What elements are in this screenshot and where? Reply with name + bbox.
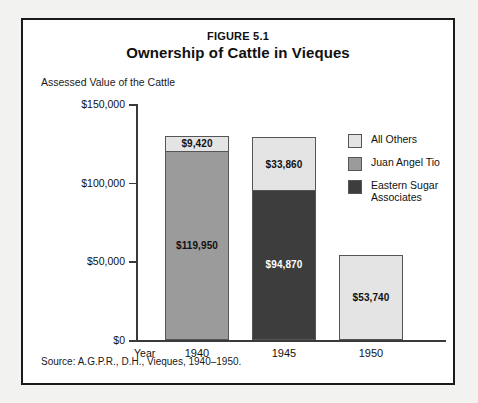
y-axis-line [136,104,138,341]
source-note: Source: A.G.P.R., D.H., Vieques, 1940–19… [41,356,241,367]
figure-frame: FIGURE 5.1 Ownership of Cattle in Vieque… [21,18,455,385]
figure-title: Ownership of Cattle in Vieques [23,44,453,61]
x-axis-label: 1950 [339,347,403,359]
y-axis-tick-mark [129,340,136,342]
y-axis-tick-mark [129,261,136,263]
x-axis-line [136,340,446,342]
bar-value-label: $53,740 [353,292,390,303]
bar-value-label: $94,870 [266,259,303,270]
y-axis-tick-label: $150,000 [81,98,125,110]
bar-group[interactable]: $53,740 [339,255,403,340]
bar-group[interactable]: $9,420$119,950 [165,136,229,340]
legend-item[interactable]: Juan Angel Tio [348,156,453,171]
bar-value-label: $9,420 [181,138,212,149]
legend-label: All Others [371,133,417,145]
bar-segment[interactable]: $33,860 [252,137,316,190]
figure-number: FIGURE 5.1 [23,30,453,42]
bar-segment[interactable]: $94,870 [252,190,316,339]
legend-item[interactable]: Eastern Sugar Associates [348,179,453,203]
x-axis-label: 1945 [252,347,316,359]
legend-swatch-icon [348,180,362,194]
legend-label: Eastern Sugar Associates [371,179,453,203]
bar-value-label: $119,950 [176,240,218,251]
legend-swatch-icon [348,134,362,148]
legend-swatch-icon [348,157,362,171]
y-axis-tick-label: $100,000 [81,177,125,189]
bar-segment[interactable]: $9,420 [165,136,229,151]
plot-area: $0$50,000$100,000$150,000 $9,420$119,950… [136,104,368,341]
legend-label: Juan Angel Tio [371,156,440,168]
bar-segment[interactable]: $53,740 [339,255,403,340]
y-axis-tick-label: $50,000 [87,255,125,267]
y-axis-tick-mark [129,183,136,185]
bar-group[interactable]: $33,860$94,870 [252,137,316,340]
bar-value-label: $33,860 [266,159,303,170]
y-axis-tick-label: $0 [113,334,125,346]
y-axis-caption: Assessed Value of the Cattle [41,76,175,88]
legend-item[interactable]: All Others [348,133,453,148]
bar-segment[interactable]: $119,950 [165,151,229,340]
y-axis-tick-mark [129,104,136,106]
legend: All OthersJuan Angel TioEastern Sugar As… [348,133,453,211]
